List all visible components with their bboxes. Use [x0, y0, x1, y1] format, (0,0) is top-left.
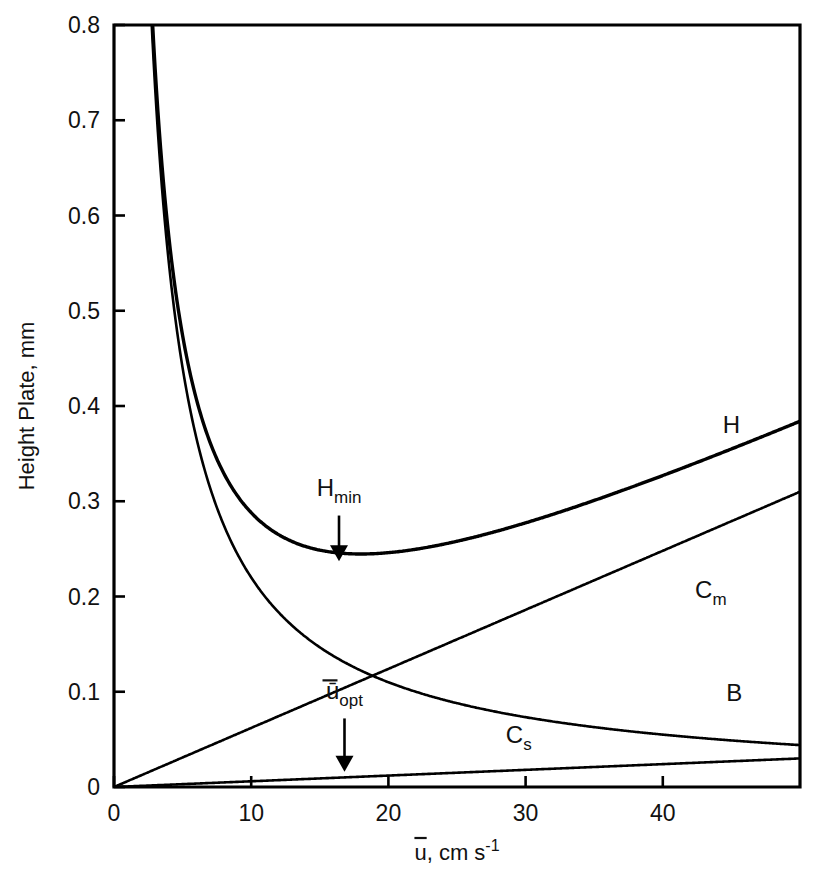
y-tick-label: 0.3: [68, 488, 100, 514]
x-tick-label: 40: [650, 800, 676, 826]
y-tick-label: 0.7: [68, 107, 100, 133]
y-tick-label: 0.4: [68, 393, 100, 419]
y-tick-label: 0.8: [68, 12, 100, 38]
y-axis-title: Height Plate, mm: [14, 322, 39, 491]
y-tick-label: 0.2: [68, 584, 100, 610]
y-tick-label: 0.5: [68, 298, 100, 324]
x-tick-label: 0: [108, 800, 121, 826]
y-axis-title-text: Height Plate, mm: [14, 322, 39, 491]
y-tick-label: 0: [87, 774, 100, 800]
x-axis-title-main: u: [414, 840, 426, 865]
x-axis-title-exponent: -1: [485, 837, 499, 854]
van-deemter-chart: 00.10.20.30.40.50.60.70.8 010203040 HCmB…: [0, 0, 824, 886]
chart-background: [0, 0, 824, 886]
y-axis-tick-labels: 00.10.20.30.40.50.60.70.8: [68, 12, 100, 800]
x-tick-label: 20: [376, 800, 402, 826]
curve-label-b: B: [726, 679, 742, 706]
chart-canvas: 00.10.20.30.40.50.60.70.8 010203040 HCmB…: [0, 0, 824, 886]
curve-label-h: H: [723, 411, 740, 438]
y-tick-label: 0.6: [68, 203, 100, 229]
y-tick-label: 0.1: [68, 679, 100, 705]
x-axis-title-rest: , cm s: [427, 840, 486, 865]
x-tick-label: 10: [238, 800, 264, 826]
x-tick-label: 30: [513, 800, 539, 826]
